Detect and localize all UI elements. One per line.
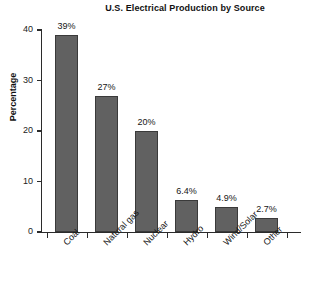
bar-value-label: 20%	[127, 118, 167, 127]
bar-value-label: 27%	[87, 83, 127, 92]
y-tick-label: 0	[8, 227, 33, 236]
x-tick-mark	[167, 233, 168, 238]
y-tick-label: 10	[8, 177, 33, 186]
bar-value-label: 4.9%	[207, 194, 247, 203]
x-tick-mark	[127, 233, 128, 238]
y-tick-label: 40	[8, 25, 33, 34]
y-tick-mark	[37, 130, 41, 131]
y-tick-label: 20	[8, 126, 33, 135]
chart-title: U.S. Electrical Production by Source	[60, 3, 310, 13]
y-axis-label: Percentage	[8, 57, 18, 137]
bar-value-label: 39%	[47, 22, 87, 31]
x-tick-mark	[47, 233, 48, 238]
x-tick-mark	[247, 233, 248, 238]
x-tick-mark	[207, 233, 208, 238]
y-tick-mark	[37, 29, 41, 30]
y-tick-mark	[37, 181, 41, 182]
x-tick-mark	[87, 233, 88, 238]
y-tick-mark	[37, 231, 41, 232]
y-tick-label: 30	[8, 76, 33, 85]
x-tick-mark	[287, 233, 288, 238]
bar	[55, 35, 78, 232]
bar-chart: U.S. Electrical Production by Source Per…	[0, 0, 334, 285]
y-tick-mark	[37, 80, 41, 81]
y-axis-line	[41, 29, 42, 233]
bar	[95, 96, 118, 232]
bar-value-label: 6.4%	[167, 187, 207, 196]
